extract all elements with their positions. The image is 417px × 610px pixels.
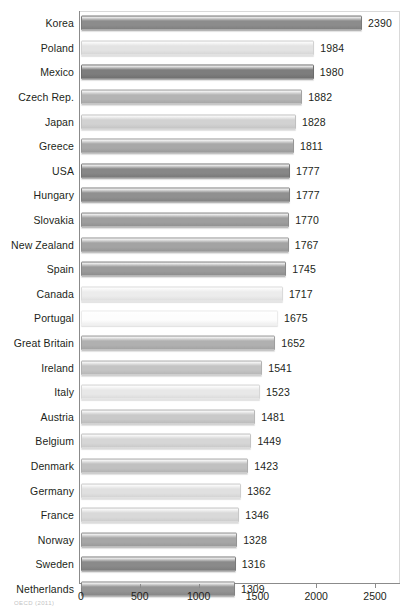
bar-track bbox=[81, 188, 290, 203]
bar-value-label: 1346 bbox=[245, 509, 269, 521]
bar bbox=[81, 237, 289, 252]
bar-row: Great Britain1652 bbox=[0, 331, 417, 356]
bar-value-label: 2390 bbox=[368, 17, 392, 29]
bar bbox=[81, 409, 255, 424]
bar-row: Italy1523 bbox=[0, 380, 417, 405]
bar-track bbox=[81, 458, 248, 473]
bar-value-label: 1811 bbox=[300, 140, 323, 152]
bar bbox=[81, 311, 278, 326]
category-label: Netherlands bbox=[0, 583, 74, 595]
bar bbox=[81, 483, 241, 498]
bar bbox=[81, 532, 237, 547]
bar-row: Portugal1675 bbox=[0, 306, 417, 331]
category-label: Mexico bbox=[0, 66, 74, 78]
category-label: Austria bbox=[0, 411, 74, 423]
category-label: Portugal bbox=[0, 312, 74, 324]
bar-row: Austria1481 bbox=[0, 405, 417, 430]
bar-value-label: 1675 bbox=[284, 312, 308, 324]
bar bbox=[81, 139, 294, 154]
category-label: Canada bbox=[0, 288, 74, 300]
bar-row: Canada1717 bbox=[0, 282, 417, 307]
x-tick-mark bbox=[140, 584, 141, 588]
bar bbox=[81, 188, 290, 203]
bar-value-label: 1828 bbox=[302, 116, 326, 128]
source-caption: OECD (2011) bbox=[14, 600, 54, 609]
bar-value-label: 1777 bbox=[296, 165, 320, 177]
bar-value-label: 1980 bbox=[320, 66, 344, 78]
bar-track bbox=[81, 581, 235, 596]
bar-track bbox=[81, 483, 241, 498]
bar-track bbox=[81, 360, 262, 375]
x-tick-mark bbox=[199, 584, 200, 588]
bar-row: France1346 bbox=[0, 503, 417, 528]
bar-value-label: 1316 bbox=[242, 558, 266, 570]
bar bbox=[81, 65, 314, 80]
bar bbox=[81, 90, 302, 105]
bar bbox=[81, 360, 262, 375]
x-tick-mark bbox=[257, 584, 258, 588]
category-label: Poland bbox=[0, 42, 74, 54]
bar-value-label: 1481 bbox=[261, 411, 285, 423]
x-tick-label: 2000 bbox=[305, 590, 328, 602]
bar-row: Germany1362 bbox=[0, 478, 417, 503]
x-tick-label: 2500 bbox=[363, 590, 386, 602]
category-label: Slovakia bbox=[0, 214, 74, 226]
x-tick-mark bbox=[316, 584, 317, 588]
bar-row: Spain1745 bbox=[0, 257, 417, 282]
bar-row: USA1777 bbox=[0, 159, 417, 184]
bar-row: Poland1984 bbox=[0, 36, 417, 61]
category-label: Czech Rep. bbox=[0, 91, 74, 103]
bar bbox=[81, 262, 286, 277]
bar-track bbox=[81, 508, 239, 523]
bar-value-label: 1777 bbox=[296, 189, 320, 201]
bar bbox=[81, 16, 362, 31]
bar bbox=[81, 458, 248, 473]
bar-row: Japan1828 bbox=[0, 109, 417, 134]
bar-track bbox=[81, 532, 237, 547]
bar-track bbox=[81, 409, 255, 424]
category-label: Sweden bbox=[0, 558, 74, 570]
bar-row: Norway1328 bbox=[0, 527, 417, 552]
x-tick-label: 0 bbox=[78, 590, 84, 602]
bar bbox=[81, 286, 283, 301]
bar-track bbox=[81, 311, 278, 326]
bar-track bbox=[81, 90, 302, 105]
bar bbox=[81, 336, 275, 351]
category-label: Norway bbox=[0, 534, 74, 546]
bar-value-label: 1541 bbox=[268, 362, 292, 374]
bar bbox=[81, 163, 290, 178]
category-label: Ireland bbox=[0, 362, 74, 374]
bar-value-label: 1423 bbox=[254, 460, 278, 472]
bar-value-label: 1984 bbox=[320, 42, 344, 54]
bar-track bbox=[81, 213, 289, 228]
bar bbox=[81, 114, 296, 129]
x-tick-label: 1000 bbox=[187, 590, 210, 602]
bar bbox=[81, 581, 235, 596]
bar bbox=[81, 434, 251, 449]
bar-value-label: 1882 bbox=[308, 91, 332, 103]
category-label: Korea bbox=[0, 17, 74, 29]
bar bbox=[81, 508, 239, 523]
bar-track bbox=[81, 336, 275, 351]
bar-value-label: 1745 bbox=[292, 263, 316, 275]
x-tick-label: 1500 bbox=[246, 590, 269, 602]
bar-track bbox=[81, 286, 283, 301]
category-label: Germany bbox=[0, 485, 74, 497]
category-label: France bbox=[0, 509, 74, 521]
category-label: Italy bbox=[0, 386, 74, 398]
bar-value-label: 1717 bbox=[289, 288, 313, 300]
bar-row: Sweden1316 bbox=[0, 552, 417, 577]
bar bbox=[81, 213, 289, 228]
bar-value-label: 1652 bbox=[281, 337, 305, 349]
bar-value-label: 1362 bbox=[247, 485, 271, 497]
bar bbox=[81, 557, 236, 572]
bar-row: Belgium1449 bbox=[0, 429, 417, 454]
x-tick-label: 500 bbox=[131, 590, 149, 602]
category-label: Belgium bbox=[0, 435, 74, 447]
bar-track bbox=[81, 65, 314, 80]
bar-value-label: 1767 bbox=[295, 239, 319, 251]
bar-rows: Korea2390Poland1984Mexico1980Czech Rep.1… bbox=[0, 11, 417, 601]
bar-value-label: 1328 bbox=[243, 534, 267, 546]
category-label: Hungary bbox=[0, 189, 74, 201]
bar-track bbox=[81, 385, 260, 400]
